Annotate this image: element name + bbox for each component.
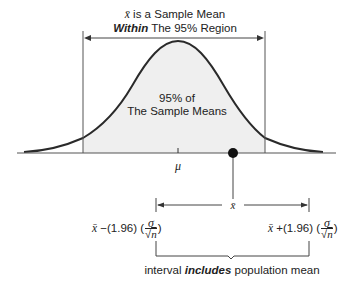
interval-brace	[156, 241, 309, 259]
interval-caption: interval includes population mean	[144, 264, 319, 277]
curve-label-line-1: 95% of	[159, 92, 195, 105]
upper-bound-formula: x̄ +(1.96) (σ√n)	[268, 218, 337, 239]
interval-arrowhead-left-icon	[157, 203, 164, 208]
arrowhead-right-icon	[257, 35, 264, 41]
xbar-interval-label: x̄	[231, 199, 236, 212]
mu-label: μ	[175, 160, 181, 173]
normal-distribution-diagram	[0, 0, 363, 293]
interval-arrowhead-right-icon	[301, 203, 308, 208]
sigma-over-root-n: σ√n	[321, 218, 333, 239]
arrowhead-left-icon	[84, 35, 91, 41]
sample-mean-dot	[228, 148, 238, 158]
sigma-over-root-n: σ√n	[145, 218, 157, 239]
lower-bound-formula: x̄ −(1.96) (σ√n)	[92, 218, 161, 239]
title-line-1: x̄ is a Sample Mean	[125, 8, 225, 21]
curve-label-line-2: The Sample Means	[127, 105, 227, 118]
title-line-2: Within The 95% Region	[113, 22, 237, 35]
